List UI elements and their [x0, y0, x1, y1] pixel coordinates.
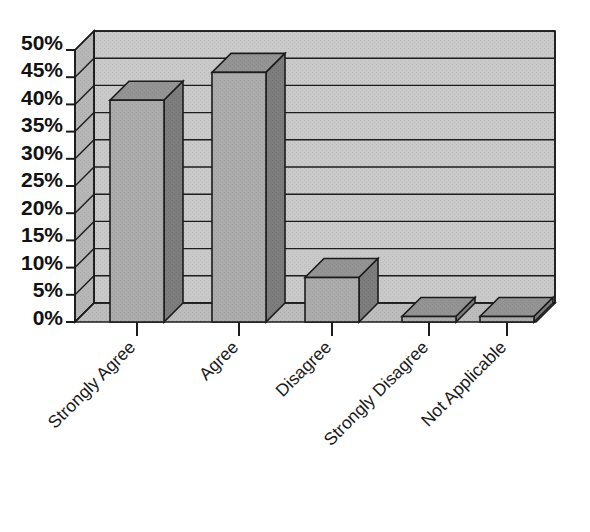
bar-strongly-agree: [110, 81, 183, 322]
y-tick-label: 50%: [21, 31, 63, 54]
y-tick-label: 10%: [21, 251, 63, 274]
y-tick-label: 40%: [21, 86, 63, 109]
y-tick-label: 15%: [21, 223, 63, 246]
y-tick-label: 5%: [33, 278, 64, 301]
y-tick-label: 35%: [21, 113, 63, 136]
bar-chart: 50% 45% 40% 35% 30% 25% 20% 15% 10% 5% 0…: [0, 0, 590, 532]
bar-disagree: [305, 259, 378, 323]
y-tick-label: 45%: [21, 58, 63, 81]
chart-canvas: 50% 45% 40% 35% 30% 25% 20% 15% 10% 5% 0…: [0, 0, 590, 532]
bar-agree: [212, 53, 285, 322]
y-tick-label: 0%: [33, 306, 64, 329]
y-tick-label: 25%: [21, 168, 63, 191]
y-tick-label: 30%: [21, 141, 63, 164]
y-tick-label: 20%: [21, 196, 63, 219]
